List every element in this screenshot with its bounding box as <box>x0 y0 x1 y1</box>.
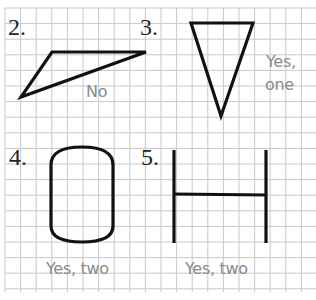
problem-4-answer: Yes, two <box>46 261 109 277</box>
problem-2-number: 2. <box>8 15 26 39</box>
problem-2-answer: No <box>86 84 107 100</box>
problem-5-answer: Yes, two <box>185 261 248 277</box>
problem-5-number: 5. <box>141 145 159 169</box>
problem-4-number: 4. <box>9 145 27 169</box>
problem-3-answer-line2: one <box>265 77 294 93</box>
problem-3-number: 3. <box>140 15 158 39</box>
problem-3-answer-line1: Yes, <box>266 54 296 70</box>
rounded-rectangle-shape <box>51 147 113 242</box>
